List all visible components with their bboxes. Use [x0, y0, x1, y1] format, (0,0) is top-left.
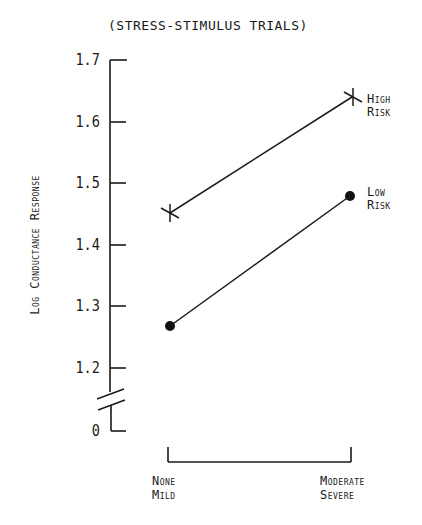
series-label-high-risk: High Risk [367, 93, 391, 119]
x-axis-bracket [168, 447, 351, 462]
low-risk-line [170, 196, 350, 326]
y-axis [97, 60, 127, 431]
high-risk-line [170, 97, 352, 213]
x-category-label: None Mild [152, 474, 176, 502]
filled-circle-marker-icon [165, 321, 175, 331]
series-high-risk [161, 88, 362, 222]
plot-area [0, 0, 422, 525]
series-label-low-risk: Low Risk [367, 186, 391, 212]
cross-marker-icon [161, 204, 179, 222]
series-low-risk [165, 191, 355, 331]
x-category-label: Moderate Severe [320, 474, 365, 502]
cross-marker-icon [344, 88, 362, 106]
filled-circle-marker-icon [345, 191, 355, 201]
